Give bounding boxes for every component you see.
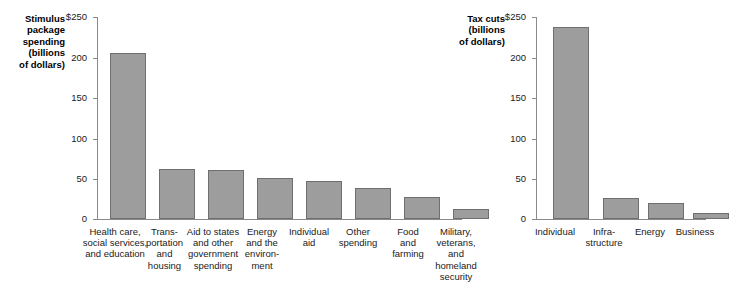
category-labels-left: Health care, social services, and educat… — [0, 0, 470, 290]
cat-label-tax-business: Business — [662, 226, 728, 237]
chart-panel-tax-cuts: Tax cuts (billions of dollars) $250 200 … — [440, 0, 711, 290]
chart-panel-stimulus-spending: Stimulus package spending (billions of d… — [0, 0, 470, 290]
category-labels-right: Individual Infra- structure Energy Busin… — [440, 0, 711, 290]
